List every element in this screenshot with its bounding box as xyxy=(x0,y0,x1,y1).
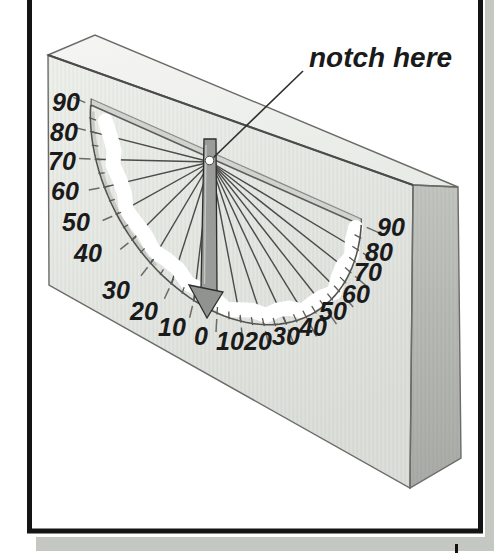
degree-label: 90 xyxy=(52,88,80,116)
page-tick-mark xyxy=(455,544,458,553)
degree-label: 90 xyxy=(377,213,405,241)
notch-annotation: notch here xyxy=(309,42,452,73)
label-tick xyxy=(79,159,90,160)
degree-label: 50 xyxy=(62,208,90,236)
degree-label: 40 xyxy=(73,239,102,267)
figure-shadow-right xyxy=(485,0,494,551)
degree-label: 20 xyxy=(129,297,158,325)
degree-tick xyxy=(240,315,241,323)
degree-label: 60 xyxy=(51,177,79,205)
degree-label: 30 xyxy=(272,322,300,350)
board-side-grain xyxy=(410,185,461,488)
degree-label: 80 xyxy=(365,238,393,266)
degree-label: 10 xyxy=(158,313,186,341)
degree-label: 70 xyxy=(48,147,76,175)
degree-label: 30 xyxy=(102,276,130,304)
degree-label: 80 xyxy=(50,118,78,146)
figure-shadow-bottom xyxy=(36,537,494,551)
clinometer-figure: 9080706050403020100102030405060708090 no… xyxy=(0,0,494,553)
degree-label: 20 xyxy=(243,327,272,355)
notch-hole xyxy=(205,156,214,165)
degree-label: 0 xyxy=(194,322,208,350)
degree-label: 10 xyxy=(216,327,244,355)
